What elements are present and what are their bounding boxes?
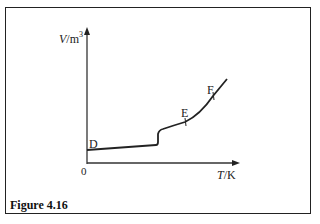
point-f-label: F [207,84,214,96]
x-axis-label: T/K [217,169,236,181]
point-e-label: E [181,107,188,119]
x-axis-arrow-icon [232,160,240,166]
y-axis-label: V/m3 [59,33,83,45]
volume-temperature-curve [87,79,227,150]
figure-caption: Figure 4.16 [10,198,68,213]
figure-plot [0,0,320,224]
origin-label: 0 [81,166,87,177]
y-axis-arrow-icon [84,27,90,35]
point-d-label: D [89,138,98,150]
